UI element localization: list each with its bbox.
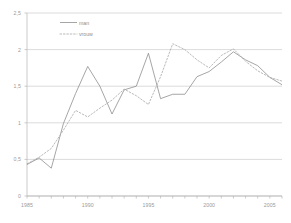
legend-swatches	[60, 23, 77, 35]
gridlines	[27, 13, 282, 196]
y-tick-label-2: 2	[5, 47, 21, 53]
x-tick-label-1985: 1985	[15, 202, 39, 208]
series-line-man	[27, 52, 282, 168]
x-tick-label-1995: 1995	[136, 202, 160, 208]
legend-label-vrouw: vrouw	[79, 31, 93, 37]
data-series-group	[27, 44, 282, 168]
x-tick-label-2005: 2005	[258, 202, 282, 208]
y-tick-label-1,5: 1,5	[5, 83, 21, 89]
y-tick-label-2,5: 2,5	[5, 10, 21, 16]
x-tick-label-2000: 2000	[197, 202, 221, 208]
y-axis-ticks	[25, 13, 28, 196]
axes	[27, 13, 282, 196]
chart-plot-area	[0, 0, 291, 223]
y-tick-label-0: 0	[5, 193, 21, 199]
legend-label-man: man	[79, 20, 89, 26]
x-tick-label-1990: 1990	[76, 202, 100, 208]
line-chart: man vrouw 00,511,522,5 19851990199520002…	[0, 0, 291, 223]
x-axis-ticks	[27, 196, 282, 199]
series-line-vrouw	[27, 44, 282, 164]
y-tick-label-0,5: 0,5	[5, 156, 21, 162]
y-tick-label-1: 1	[5, 120, 21, 126]
